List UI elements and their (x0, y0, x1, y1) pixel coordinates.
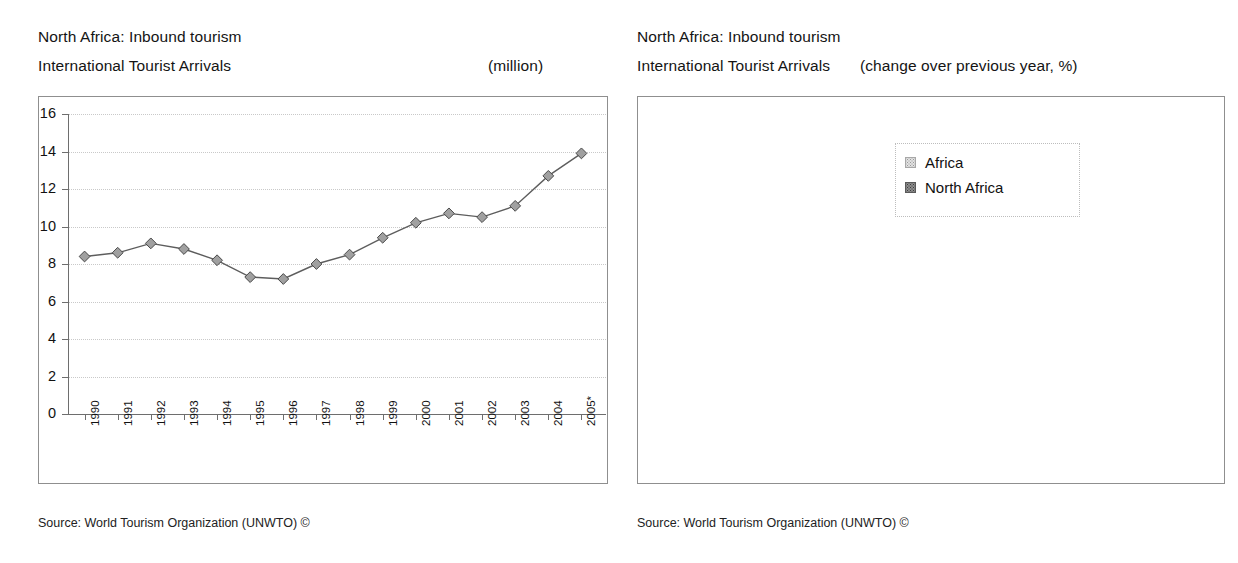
bar-chart-legend: Africa North Africa (895, 143, 1080, 217)
legend-label-africa: Africa (925, 154, 963, 171)
right-chart-title-line1: North Africa: Inbound tourism (637, 28, 841, 46)
right-chart-source: Source: World Tourism Organization (UNWT… (637, 516, 909, 530)
line-chart-data-point[interactable] (576, 148, 587, 159)
line-chart-data-point[interactable] (79, 251, 90, 262)
line-chart-data-point[interactable] (212, 255, 223, 266)
legend-label-north-africa: North Africa (925, 179, 1003, 196)
line-chart-data-point[interactable] (311, 259, 322, 270)
left-chart-panel: North Africa: Inbound tourism Internatio… (0, 0, 620, 563)
legend-swatch-africa-icon (905, 157, 916, 168)
legend-item-africa[interactable]: Africa (905, 150, 1067, 175)
line-chart-data-point[interactable] (145, 238, 156, 249)
line-chart-data-point[interactable] (477, 212, 488, 223)
right-chart-unit-label: (change over previous year, %) (860, 57, 1078, 75)
line-chart-data-point[interactable] (377, 232, 388, 243)
figure-page: North Africa: Inbound tourism Internatio… (0, 0, 1238, 563)
line-chart-data-point[interactable] (112, 247, 123, 258)
line-chart-data-point[interactable] (344, 249, 355, 260)
legend-swatch-north-africa-icon (905, 182, 916, 193)
right-chart-title-line2: International Tourist Arrivals (637, 57, 830, 75)
right-chart-panel: North Africa: Inbound tourism Internatio… (620, 0, 1238, 563)
line-chart-data-point[interactable] (245, 272, 256, 283)
line-chart-data-point[interactable] (278, 274, 289, 285)
line-chart-data-point[interactable] (444, 208, 455, 219)
line-chart-data-point[interactable] (410, 217, 421, 228)
legend-item-north-africa[interactable]: North Africa (905, 175, 1067, 200)
line-chart-data-point[interactable] (179, 244, 190, 255)
left-chart-source: Source: World Tourism Organization (UNWT… (38, 516, 310, 530)
